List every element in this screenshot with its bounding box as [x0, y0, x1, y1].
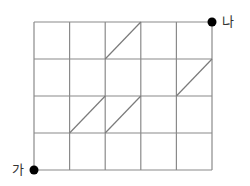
start-point-dot — [30, 166, 39, 175]
end-label: 나 — [222, 15, 234, 28]
start-label: 가 — [12, 163, 24, 176]
grid-lines — [34, 22, 212, 170]
end-point-dot — [208, 18, 217, 27]
grid-diagram — [0, 0, 250, 186]
